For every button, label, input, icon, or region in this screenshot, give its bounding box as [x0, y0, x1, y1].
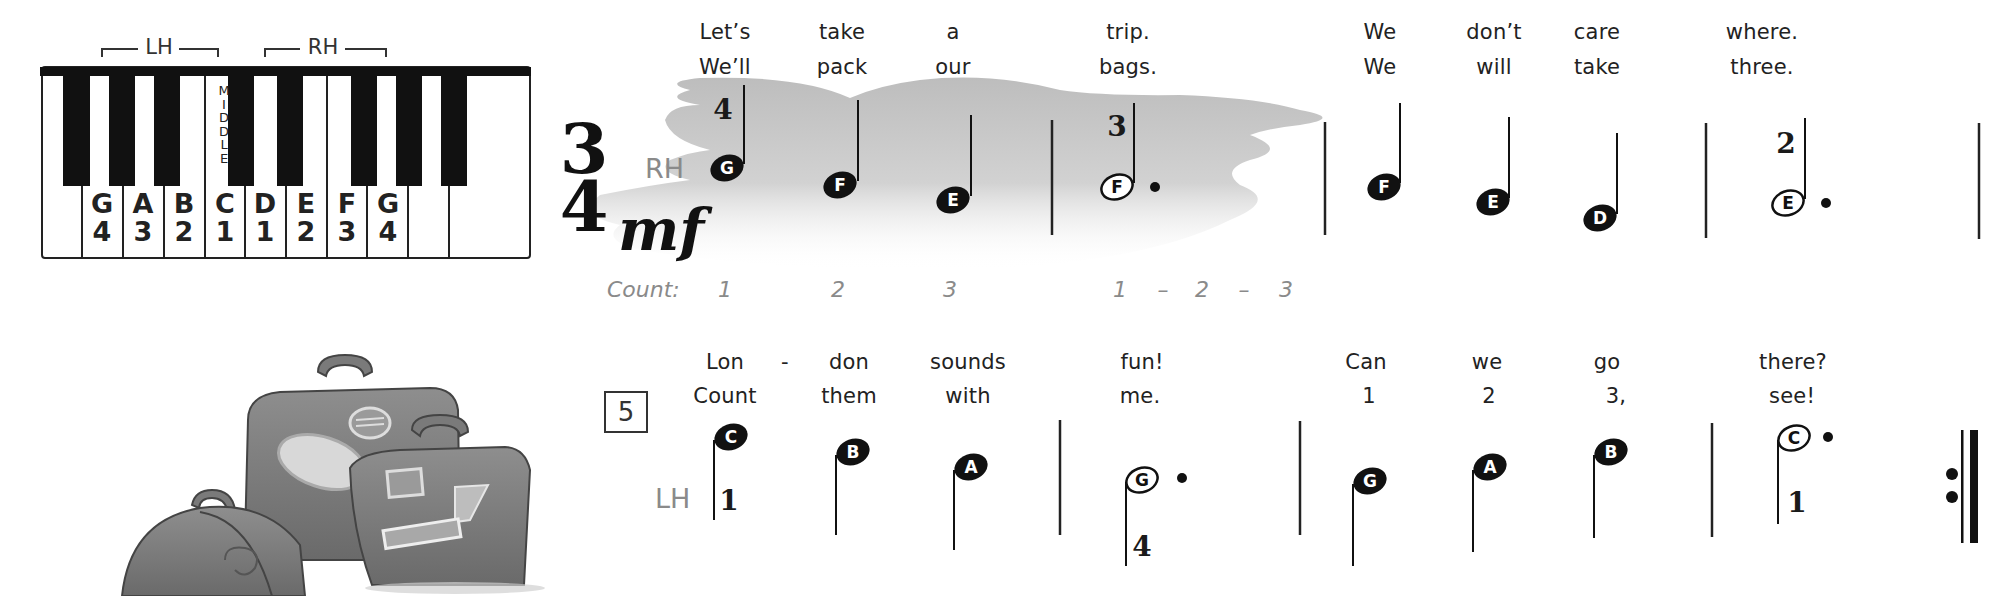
system-2-graphics: C B A G G A B C — [0, 0, 2000, 596]
left-hand-label: LH — [655, 483, 690, 514]
lyric: 2 — [1482, 384, 1496, 408]
note-letter: G — [1363, 471, 1377, 491]
lyric: sounds — [930, 350, 1006, 374]
end-repeat-sign — [1946, 430, 1978, 543]
note-letter: B — [847, 442, 860, 462]
note-letter: C — [1788, 428, 1800, 448]
note-letter: A — [1483, 457, 1497, 477]
lyric: me. — [1120, 384, 1161, 408]
note-letter: B — [1605, 442, 1618, 462]
finger-number: 1 — [719, 484, 738, 517]
lyric: Lon — [706, 350, 744, 374]
lyric: them — [821, 384, 877, 408]
lyric: 1 — [1362, 384, 1376, 408]
measure-number: 5 — [604, 391, 648, 433]
lyric: see! — [1769, 384, 1815, 408]
dot — [1823, 432, 1833, 442]
lyric: there? — [1759, 350, 1827, 374]
finger-number: 1 — [1787, 486, 1806, 519]
finger-number: 4 — [1132, 530, 1151, 563]
lyric-hyphen: - — [781, 350, 789, 374]
lyric: Count — [693, 384, 756, 408]
lyric: don — [829, 350, 869, 374]
lyric: Can — [1345, 350, 1386, 374]
lyric: fun! — [1120, 350, 1163, 374]
lyric: we — [1472, 350, 1503, 374]
lyric: with — [945, 384, 990, 408]
note-letter: G — [1135, 470, 1149, 490]
note-letter: C — [725, 427, 737, 447]
note-letter: A — [964, 457, 978, 477]
dot — [1177, 473, 1187, 483]
lyric: 3, — [1606, 384, 1626, 408]
lyric: go — [1594, 350, 1621, 374]
